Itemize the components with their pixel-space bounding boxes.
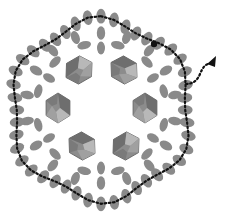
seed-bead xyxy=(33,83,44,99)
crystal-right xyxy=(133,93,157,123)
seed-bead xyxy=(97,176,105,190)
seed-bead xyxy=(28,138,44,152)
seed-bead xyxy=(97,26,105,40)
seed-bead xyxy=(139,146,155,162)
crystal-bottom-right xyxy=(107,128,145,164)
seed-bead xyxy=(47,146,63,162)
crystal-left xyxy=(46,93,70,123)
bicone-crystals xyxy=(46,52,157,164)
seed-bead xyxy=(41,131,56,144)
seed-bead xyxy=(145,131,160,144)
seed-bead xyxy=(47,54,63,70)
seed-bead xyxy=(171,51,189,67)
seed-bead xyxy=(70,185,83,202)
seed-bead xyxy=(145,71,160,84)
arrow-head-icon xyxy=(207,56,216,67)
seed-bead xyxy=(139,54,155,70)
seed-bead xyxy=(28,63,44,77)
crystal-top-right xyxy=(105,52,143,88)
start-knot-icon xyxy=(151,41,157,47)
crystal-bottom-left xyxy=(63,128,101,164)
seed-bead xyxy=(97,162,105,175)
seed-bead xyxy=(41,71,56,84)
seed-bead xyxy=(97,42,105,55)
crystal-top-left xyxy=(60,52,98,88)
inner-seed-bead-ring xyxy=(20,26,183,190)
pattern-canvas xyxy=(0,0,235,215)
seed-bead xyxy=(158,63,174,77)
beadwork-diagram xyxy=(0,0,235,215)
seed-bead xyxy=(158,138,174,152)
seed-bead xyxy=(158,83,169,99)
seed-bead xyxy=(33,117,44,133)
seed-bead xyxy=(158,117,169,133)
